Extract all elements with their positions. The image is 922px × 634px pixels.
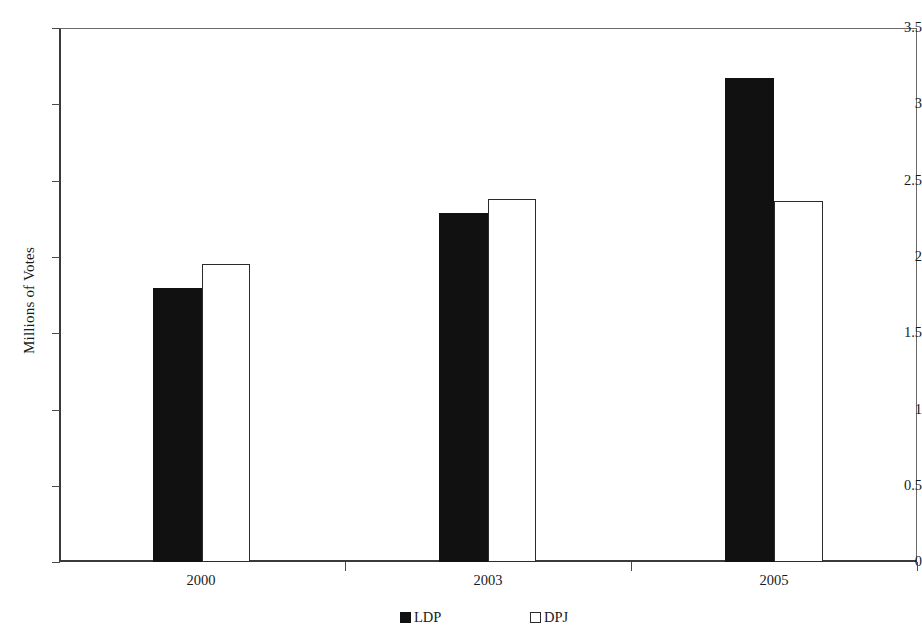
legend-item-dpj: DPJ (530, 606, 568, 628)
y-tick-label-1-5: 1.5 (878, 325, 922, 340)
legend-swatch-hollow-icon (530, 612, 541, 623)
y-tick-3 (52, 104, 60, 105)
y-axis-title: Millions of Votes (21, 221, 38, 381)
bar-dpj-2005 (774, 201, 823, 562)
x-axis-label-2000: 2000 (141, 572, 261, 589)
bar-dpj-2000 (202, 264, 250, 562)
bar-dpj-2003 (488, 199, 536, 562)
x-axis-label-2003: 2003 (428, 572, 548, 589)
legend-label-dpj: DPJ (544, 609, 568, 626)
y-tick-1-5 (52, 333, 60, 334)
y-tick-label-2: 2 (878, 249, 922, 264)
bar-ldp-2000 (153, 288, 202, 562)
y-tick-0-5 (52, 486, 60, 487)
y-tick-2-5 (52, 181, 60, 182)
y-tick-0 (52, 562, 60, 563)
y-tick-label-3: 3 (878, 96, 922, 111)
y-tick-label-1: 1 (878, 402, 922, 417)
y-tick-label-2-5: 2.5 (878, 173, 922, 188)
x-tick-1 (345, 562, 346, 571)
chart-legend: LDP DPJ (0, 606, 922, 634)
y-tick-1 (52, 410, 60, 411)
x-axis-label-2005: 2005 (714, 572, 834, 589)
y-tick-2 (52, 257, 60, 258)
legend-item-ldp: LDP (400, 606, 441, 628)
legend-label-ldp: LDP (414, 609, 441, 626)
legend-swatch-filled-icon (400, 612, 411, 623)
x-tick-2 (631, 562, 632, 571)
y-tick-label-0: 0 (878, 554, 922, 569)
bar-chart: Millions of Votes 3.5 3 2.5 2 1.5 1 0.5 … (0, 0, 922, 634)
x-tick-3 (917, 562, 918, 571)
y-tick-label-3-5: 3.5 (878, 20, 922, 35)
bar-ldp-2005 (725, 78, 774, 562)
y-tick-label-0-5: 0.5 (878, 478, 922, 493)
y-tick-3-5 (52, 28, 60, 29)
bar-ldp-2003 (439, 213, 488, 562)
